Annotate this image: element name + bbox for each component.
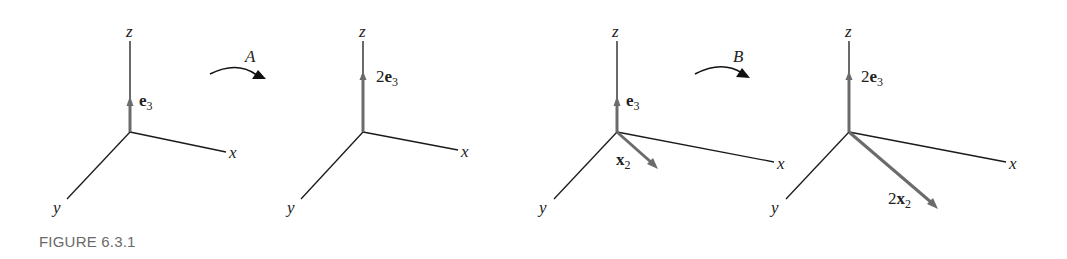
arrowhead-icon <box>252 70 266 79</box>
map-a-label: A <box>244 47 256 66</box>
e3-label: e3 <box>139 91 153 113</box>
y-axis-label: y <box>285 198 295 217</box>
z-axis-label: z <box>611 22 619 41</box>
e3-arrowhead-icon <box>614 96 621 106</box>
map-a-arrow: A <box>210 47 266 79</box>
panel-2: z x y 2e3 <box>285 22 469 217</box>
map-b-arrow: B <box>695 47 750 78</box>
x-axis <box>617 132 774 162</box>
panel-3: z x y e3 x2 <box>537 22 785 217</box>
y-axis <box>786 132 849 199</box>
y-axis <box>301 132 363 199</box>
2e3-label: 2e3 <box>861 67 883 89</box>
2e3-arrowhead-icon <box>360 71 367 80</box>
2e3-arrowhead-icon <box>846 71 853 80</box>
x-axis-label: x <box>460 142 469 161</box>
y-axis-label: y <box>537 198 547 217</box>
x-axis-label: x <box>776 154 785 173</box>
z-axis-label: z <box>125 22 133 41</box>
curved-arrow-icon <box>210 67 258 76</box>
panel-1: z x y e3 <box>51 22 237 217</box>
figure-canvas: z x y e3 A z x y 2e3 z x y e3 x2 <box>0 0 1067 259</box>
y-axis <box>554 132 617 199</box>
e3-arrowhead-icon <box>127 96 134 106</box>
figure-caption: FIGURE 6.3.1 <box>39 233 136 250</box>
x-axis <box>130 132 226 152</box>
2x2-label: 2x2 <box>888 189 911 211</box>
x-axis-label: x <box>228 143 237 162</box>
y-axis-label: y <box>769 198 779 217</box>
2e3-label: 2e3 <box>376 67 398 89</box>
y-axis <box>67 132 130 199</box>
e3-label: e3 <box>626 91 640 113</box>
z-axis-label: z <box>358 22 366 41</box>
x-axis <box>849 132 1006 162</box>
x-axis-label: x <box>1008 154 1017 173</box>
curved-arrow-icon <box>695 67 742 74</box>
x2-label: x2 <box>616 150 631 172</box>
y-axis-label: y <box>51 198 61 217</box>
map-b-label: B <box>733 47 744 66</box>
arrowhead-icon <box>736 68 750 78</box>
panel-4: z x y 2e3 2x2 <box>769 22 1017 217</box>
z-axis-label: z <box>844 22 852 41</box>
x-axis <box>363 132 458 150</box>
